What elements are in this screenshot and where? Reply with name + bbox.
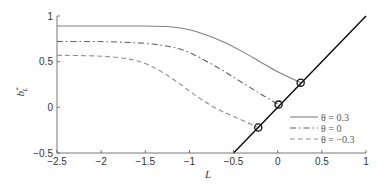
y-tick-label: 0 bbox=[47, 102, 53, 113]
series-line-1 bbox=[57, 41, 279, 104]
x-tick-label: 0 bbox=[275, 156, 281, 167]
axes: −2.5−2−1.5−1−0.500.51−0.500.51 bbox=[33, 11, 369, 168]
y-tick-label: 0.5 bbox=[39, 56, 53, 67]
x-tick-label: −0.5 bbox=[224, 156, 244, 167]
chart: −2.5−2−1.5−1−0.500.51−0.500.51 θ = 0.3θ … bbox=[0, 0, 386, 186]
y-tick-label: 1 bbox=[47, 11, 53, 22]
x-tick-label: −1.5 bbox=[135, 156, 155, 167]
series-line-2 bbox=[57, 55, 258, 127]
x-tick-label: 0.5 bbox=[315, 156, 329, 167]
svg-text:b*L: b*L bbox=[14, 87, 29, 97]
x-axis-label: L bbox=[204, 168, 211, 180]
x-tick-label: 1 bbox=[363, 156, 369, 167]
legend: θ = 0.3θ = 0θ = −0.3 bbox=[290, 112, 355, 145]
x-tick-label: −1 bbox=[184, 156, 196, 167]
x-tick-label: −2 bbox=[95, 156, 107, 167]
plot-area bbox=[57, 16, 366, 153]
y-label-sub: L bbox=[21, 88, 29, 93]
legend-label: θ = −0.3 bbox=[321, 134, 355, 145]
y-axis-label: b*L bbox=[14, 87, 29, 97]
series-line-3 bbox=[234, 16, 366, 153]
legend-label: θ = 0 bbox=[321, 123, 341, 134]
y-tick-label: −0.5 bbox=[33, 148, 53, 159]
series-line-0 bbox=[57, 26, 301, 83]
legend-label: θ = 0.3 bbox=[321, 112, 349, 123]
